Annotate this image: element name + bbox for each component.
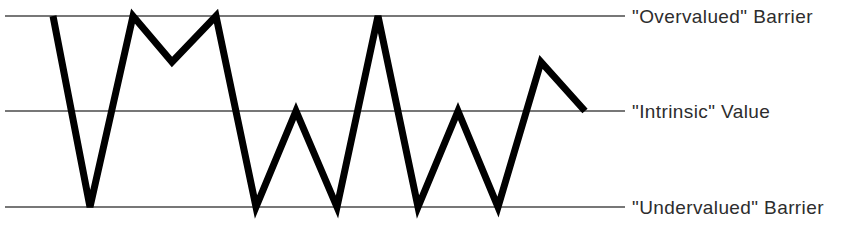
- chart-canvas: [0, 0, 845, 232]
- price-oscillation-chart: "Overvalued" Barrier "Intrinsic" Value "…: [0, 0, 845, 232]
